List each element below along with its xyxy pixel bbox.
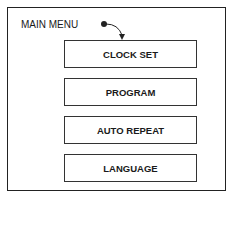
- menu-item-label: CLOCK SET: [103, 49, 158, 60]
- menu-item-language[interactable]: LANGUAGE: [64, 154, 197, 182]
- menu-item-label: AUTO REPEAT: [97, 125, 164, 136]
- menu-item-clock-set[interactable]: CLOCK SET: [64, 40, 197, 68]
- menu-item-program[interactable]: PROGRAM: [64, 78, 197, 106]
- menu-item-auto-repeat[interactable]: AUTO REPEAT: [64, 116, 197, 144]
- menu-item-label: PROGRAM: [106, 87, 156, 98]
- menu-item-label: LANGUAGE: [103, 163, 157, 174]
